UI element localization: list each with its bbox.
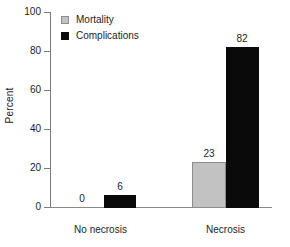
bar-necrosis-mortality <box>192 162 226 208</box>
y-axis-tick-label-0: 0 <box>1 202 41 212</box>
bar-necrosis-complications <box>226 47 259 208</box>
y-axis-tick-label-40: 40 <box>1 124 41 134</box>
bar-value-no-necrosis-complications: 6 <box>109 182 131 192</box>
bar-chart: Percent 100 80 60 40 20 0 Mortality Comp… <box>0 0 290 247</box>
legend-item-complications: Complications <box>61 29 139 42</box>
y-axis-tick-label-100: 100 <box>1 7 41 17</box>
x-axis-group-label-no-necrosis: No necrosis <box>53 224 148 235</box>
bar-value-necrosis-mortality: 23 <box>198 149 220 159</box>
legend-label-mortality: Mortality <box>76 15 114 25</box>
y-axis-tick-label-60: 60 <box>1 85 41 95</box>
y-axis-tick-label-20: 20 <box>1 163 41 173</box>
y-axis-tick-60 <box>44 90 50 91</box>
legend-label-complications: Complications <box>76 31 139 41</box>
legend-item-mortality: Mortality <box>61 13 139 26</box>
bar-value-necrosis-complications: 82 <box>231 34 253 44</box>
bar-no-necrosis-complications <box>104 195 136 208</box>
y-axis-tick-label-80: 80 <box>1 46 41 56</box>
legend-swatch-gray-square-icon <box>61 16 69 24</box>
y-axis-line <box>50 12 51 208</box>
y-axis-tick-80 <box>44 51 50 52</box>
y-axis-tick-20 <box>44 168 50 169</box>
y-axis-tick-40 <box>44 129 50 130</box>
bar-value-no-necrosis-mortality: 0 <box>71 194 93 204</box>
legend-swatch-black-square-icon <box>61 32 69 40</box>
legend: Mortality Complications <box>61 13 139 45</box>
y-axis-tick-100 <box>44 12 50 13</box>
x-axis-group-label-necrosis: Necrosis <box>178 224 273 235</box>
